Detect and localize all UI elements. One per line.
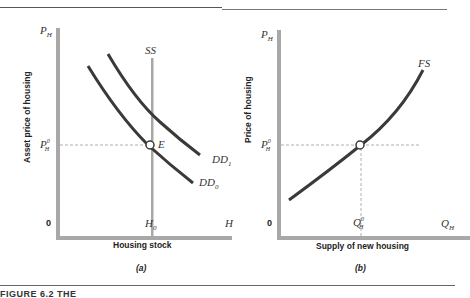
panel-a-dd1-label: DD1	[212, 153, 231, 168]
panel-a-equilibrium-label: E	[158, 138, 165, 150]
panel-b-label: (b)	[355, 263, 366, 273]
panel-b-supply-label: FS	[418, 57, 430, 69]
panel-b-y-axis-title: Price of housing	[243, 76, 253, 143]
panel-a-equilibrium-point	[146, 141, 154, 149]
panel-a-y-axis	[56, 28, 60, 240]
panel-b-equilibrium-point	[356, 141, 364, 149]
panel-a-label: (a)	[136, 263, 146, 273]
panel-b-origin-label: 0	[267, 218, 272, 228]
panel-b-supply-curve-fs	[289, 70, 423, 200]
panel-a-demand-curve-dd1	[108, 54, 200, 155]
panel-a-equilibrium-price-label: P0H	[40, 138, 49, 152]
panel-a-demand-curve-dd0	[88, 66, 193, 183]
panel-b-x-axis	[277, 236, 470, 240]
panel-a-y-axis-title: Asset price of housing	[22, 71, 32, 163]
panel-b-x-equilibrium-label: Q0H	[353, 216, 363, 230]
panel-a-x-axis-title: Housing stock	[113, 240, 172, 250]
panel-a-x-equilibrium-label: H0	[145, 217, 156, 232]
panel-a-y-axis-top-label: PH	[40, 24, 52, 39]
panel-a-supply-label: SS	[145, 44, 156, 56]
panel-b-y-axis-top-label: PH	[261, 28, 273, 43]
panel-b-y-axis	[277, 30, 281, 240]
figure-caption: FIGURE 6.2 THE	[0, 289, 77, 298]
panel-a-origin-label: 0	[46, 218, 51, 228]
panel-b-x-axis-end-label: QH	[441, 217, 454, 232]
panel-a-x-axis-end-label: H	[225, 217, 233, 229]
panel-a-dd0-label: DD0	[199, 176, 218, 191]
bottom-rule	[0, 285, 455, 286]
panel-b-equilibrium-price-label: P0H	[261, 138, 270, 152]
diagram-canvas	[0, 0, 470, 298]
panel-b-x-axis-title: Supply of new housing	[316, 241, 409, 251]
